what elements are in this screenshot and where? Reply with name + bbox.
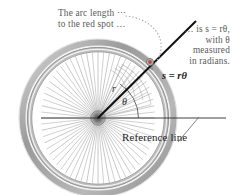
arc-length-annotation: The arc length ⋯ to the red spot …: [58, 8, 126, 29]
radian-note-leader: [195, 21, 196, 22]
radian-annotation: … is s = rθ, with θ measured in radians.: [158, 24, 230, 66]
radius-label: r: [112, 84, 116, 94]
wheel-arc-length-figure: The arc length ⋯ to the red spot … … is …: [0, 0, 232, 195]
arc-formula-label: s = rθ: [162, 70, 187, 81]
red-spot-marker: [147, 59, 154, 66]
angle-theta-label: θ: [122, 96, 127, 107]
reference-line-label: Reference line: [122, 131, 187, 143]
